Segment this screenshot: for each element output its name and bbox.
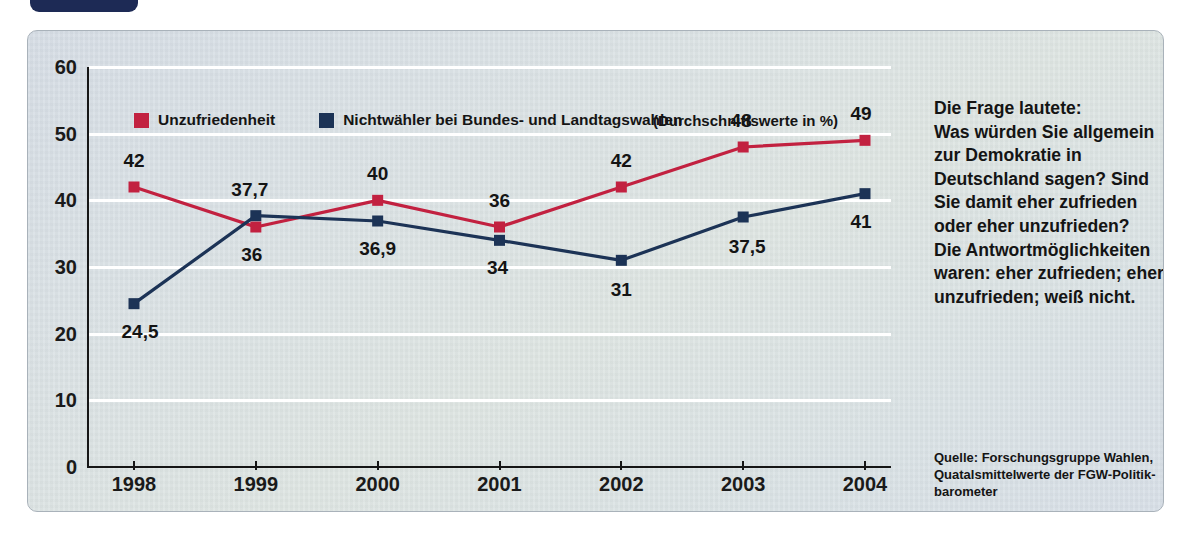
page-root: Nichtwähler und... Unzufriedenheit Nicht… — [0, 0, 1191, 548]
x-tick-label: 2001 — [477, 473, 522, 496]
data-point-label: 31 — [611, 279, 632, 301]
data-point-label: 42 — [611, 150, 632, 172]
data-point-marker[interactable] — [372, 216, 383, 227]
y-tick-label: 60 — [55, 56, 77, 79]
question-line: Was würden Sie allgemein — [934, 121, 1164, 145]
x-tick-label: 2002 — [599, 473, 644, 496]
question-line: Sie damit eher zufrieden — [934, 191, 1164, 215]
question-line: Deutschland sagen? Sind — [934, 168, 1164, 192]
question-line: zur Demokratie in — [934, 144, 1164, 168]
data-point-marker[interactable] — [616, 255, 627, 266]
data-point-marker[interactable] — [250, 210, 261, 221]
chart-panel: Unzufriedenheit Nichtwähler bei Bundes- … — [27, 30, 1164, 512]
data-point-label: 40 — [367, 163, 388, 185]
question-line: Die Frage lautete: — [934, 97, 1164, 121]
x-tick-label: 2003 — [721, 473, 766, 496]
data-point-label: 36,9 — [359, 238, 396, 260]
data-point-marker[interactable] — [616, 182, 627, 193]
data-point-marker[interactable] — [129, 298, 140, 309]
data-point-label: 49 — [850, 103, 871, 125]
question-line: waren: eher zufrieden; eher — [934, 262, 1164, 286]
data-point-label: 37,5 — [729, 236, 766, 258]
data-point-label: 36 — [241, 244, 262, 266]
data-point-label: 34 — [487, 257, 508, 279]
x-tick-label: 1998 — [112, 473, 157, 496]
page-title: Nichtwähler und... — [170, 0, 354, 4]
header-badge — [30, 0, 138, 12]
data-point-marker[interactable] — [860, 188, 871, 199]
data-point-label: 41 — [850, 211, 871, 233]
plot-area: 0102030405060 19981999200020012002200320… — [87, 67, 891, 502]
data-point-marker[interactable] — [494, 235, 505, 246]
y-tick-label: 50 — [55, 122, 77, 145]
source-line: barometer — [934, 483, 1164, 500]
question-line: unzufrieden; weiß nicht. — [934, 286, 1164, 310]
data-point-label: 42 — [123, 150, 144, 172]
y-tick-label: 40 — [55, 189, 77, 212]
data-point-marker[interactable] — [738, 142, 749, 153]
x-tick-label: 2004 — [843, 473, 888, 496]
source-text: Quelle: Forschungsgruppe Wahlen,Quatalsm… — [934, 449, 1164, 500]
page-header-strip: Nichtwähler und... — [0, 0, 1191, 14]
x-tick-label: 1999 — [234, 473, 279, 496]
data-point-label: 36 — [489, 190, 510, 212]
source-line: Quatalsmittelwerte der FGW-Politik- — [934, 466, 1164, 483]
data-point-marker[interactable] — [372, 195, 383, 206]
source-line: Quelle: Forschungsgruppe Wahlen, — [934, 449, 1164, 466]
data-point-label: 48 — [731, 110, 752, 132]
y-tick-label: 10 — [55, 389, 77, 412]
data-point-marker[interactable] — [738, 212, 749, 223]
y-tick-label: 0 — [66, 456, 77, 479]
data-point-marker[interactable] — [494, 222, 505, 233]
y-tick-label: 20 — [55, 322, 77, 345]
data-point-marker[interactable] — [250, 222, 261, 233]
question-line: oder eher unzufrieden? — [934, 215, 1164, 239]
question-text: Die Frage lautete:Was würden Sie allgeme… — [934, 97, 1164, 309]
question-line: Die Antwortmöglichkeiten — [934, 239, 1164, 263]
y-tick-label: 30 — [55, 256, 77, 279]
data-point-marker[interactable] — [129, 182, 140, 193]
x-tick-label: 2000 — [355, 473, 400, 496]
data-point-label: 37,7 — [231, 179, 268, 201]
data-point-label: 24,5 — [122, 321, 159, 343]
data-point-marker[interactable] — [860, 135, 871, 146]
